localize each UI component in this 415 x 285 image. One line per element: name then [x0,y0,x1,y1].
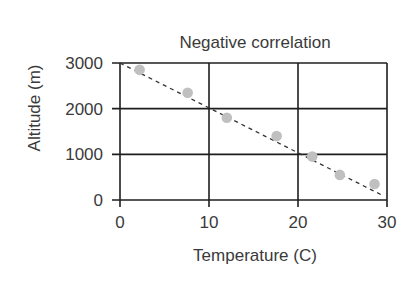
data-point [369,179,380,190]
data-point [307,151,318,162]
y-tick-label: 0 [94,191,103,210]
x-tick-labels: 0102030 [115,213,396,232]
scatter-chart: Negative correlation 0100020003000 01020… [0,0,415,285]
x-tick-label: 20 [289,213,308,232]
y-tick-label: 3000 [65,54,103,73]
data-point [335,170,346,181]
x-tick-label: 10 [200,213,219,232]
chart-title: Negative correlation [179,33,330,52]
grid-lines [112,63,387,207]
y-tick-labels: 0100020003000 [65,54,103,210]
x-axis-label: Temperature (C) [193,246,317,265]
data-point [222,113,233,124]
x-tick-label: 30 [378,213,397,232]
data-points [134,65,380,190]
y-tick-label: 1000 [65,145,103,164]
data-point [271,131,282,142]
x-tick-label: 0 [115,213,124,232]
data-point [182,87,193,98]
y-tick-label: 2000 [65,100,103,119]
data-point [134,65,145,76]
y-axis-label: Altitude (m) [25,65,44,152]
